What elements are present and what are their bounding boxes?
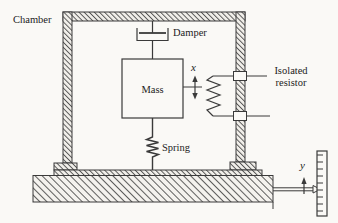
isolated-resistor-label-line2: resistor: [276, 77, 307, 88]
figure-canvas: Chamber Damper Mass Spring Isolated resi…: [0, 0, 338, 223]
mass-label: Mass: [122, 84, 183, 96]
resistor-zigzag: [207, 76, 220, 116]
x-displacement-arrow: [183, 76, 202, 100]
x-arrowhead-up-icon: [192, 76, 197, 83]
pointer-rod: [273, 186, 321, 194]
isolated-resistor-label-line1: Isolated: [274, 65, 307, 76]
damper-symbol: [137, 21, 168, 59]
ruler-scale: [317, 151, 327, 216]
y-arrowhead-up-icon: [301, 177, 306, 184]
spring-label: Spring: [162, 142, 190, 154]
chamber-left-wall: [63, 12, 72, 163]
ground-block: [33, 176, 273, 203]
x-arrowhead-down-icon: [192, 93, 197, 100]
y-displacement-arrow: [301, 177, 306, 194]
diagram-svg: [0, 0, 338, 223]
chamber-top-wall: [63, 12, 245, 21]
spring-symbol: [147, 118, 159, 170]
feedthrough-insulator-bottom: [234, 112, 247, 121]
isolated-resistor-label: Isolated resistor: [269, 65, 313, 88]
chamber-label: Chamber: [13, 14, 52, 26]
right-wall-foot: [230, 162, 256, 170]
feedthrough-insulator-top: [234, 72, 247, 81]
chamber-right-wall: [236, 12, 245, 162]
y-label: y: [300, 160, 305, 172]
x-label: x: [191, 62, 196, 74]
base-plate: [54, 170, 262, 176]
left-wall-foot: [54, 163, 77, 170]
damper-label: Damper: [173, 27, 207, 39]
